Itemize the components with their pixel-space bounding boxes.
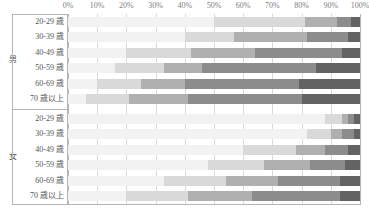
x-axis-bottom-line xyxy=(67,204,361,205)
bar-segment-1 xyxy=(68,191,126,201)
bar-segment-4 xyxy=(188,94,302,104)
bar-segment-1 xyxy=(68,79,97,89)
x-axis-tick-labels: 0%10%20%30%40%50%60%70%80%90%100% xyxy=(0,0,368,14)
bar-segment-5 xyxy=(340,176,360,186)
bar-segment-1 xyxy=(68,94,86,104)
bar-segment-4 xyxy=(342,129,354,139)
bar-segment-1 xyxy=(68,48,126,58)
bar-row xyxy=(68,191,360,201)
row-label-女-5: 70 歳以上 xyxy=(30,190,64,202)
bar-segment-5 xyxy=(348,32,360,42)
bar-segment-3 xyxy=(264,160,311,170)
bar-segment-5 xyxy=(354,129,360,139)
bar-row xyxy=(68,176,360,186)
x-tick-label-50: 50% xyxy=(207,1,222,10)
bar-segment-1 xyxy=(68,129,307,139)
row-label-男-4: 60-69 歳 xyxy=(35,78,64,90)
bar-segment-3 xyxy=(188,191,252,201)
bar-segment-1 xyxy=(68,17,214,27)
bar-segment-5 xyxy=(316,63,360,73)
bar-segment-5 xyxy=(340,191,360,201)
label-column-bottom-rule xyxy=(12,204,68,205)
x-tick-label-0: 0% xyxy=(63,1,74,10)
bar-segment-3 xyxy=(164,63,202,73)
row-label-男-2: 40-49 歳 xyxy=(35,47,64,59)
label-column-top-rule xyxy=(12,14,68,15)
bar-segment-4 xyxy=(307,32,348,42)
bar-segment-2 xyxy=(126,48,190,58)
bar-segment-1 xyxy=(68,114,325,124)
bar-segment-2 xyxy=(86,94,130,104)
row-label-女-4: 60-69 歳 xyxy=(35,175,64,187)
row-label-女-0: 20-29 歳 xyxy=(35,113,64,125)
bar-segment-2 xyxy=(325,114,343,124)
bar-segment-4 xyxy=(185,79,299,89)
bar-segment-1 xyxy=(68,176,164,186)
bar-segment-3 xyxy=(296,145,325,155)
bar-segment-4 xyxy=(252,191,340,201)
bar-row xyxy=(68,48,360,58)
bar-segment-3 xyxy=(141,79,185,89)
bar-segment-2 xyxy=(185,32,235,42)
bar-segment-1 xyxy=(68,145,243,155)
bar-segment-3 xyxy=(129,94,187,104)
bar-row xyxy=(68,79,360,89)
bar-segment-4 xyxy=(278,176,339,186)
plot-area xyxy=(68,14,360,204)
bar-segment-4 xyxy=(255,48,343,58)
bar-segment-2 xyxy=(164,176,225,186)
row-label-男-1: 30-39 歳 xyxy=(35,31,64,43)
x-tick-label-40: 40% xyxy=(177,1,192,10)
bar-segment-2 xyxy=(126,191,187,201)
row-label-女-1: 30-39 歳 xyxy=(35,128,64,140)
bar-row xyxy=(68,114,360,124)
bar-row xyxy=(68,63,360,73)
x-tick-label-60: 60% xyxy=(236,1,251,10)
bar-segment-5 xyxy=(354,114,360,124)
bar-segment-2 xyxy=(97,79,141,89)
bar-segment-5 xyxy=(345,160,360,170)
bar-segment-1 xyxy=(68,32,185,42)
row-label-男-3: 50-59 歳 xyxy=(35,62,64,74)
row-label-女-3: 50-59 歳 xyxy=(35,159,64,171)
bar-segment-4 xyxy=(202,63,316,73)
bar-segment-1 xyxy=(68,160,208,170)
bar-segment-3 xyxy=(226,176,279,186)
row-label-女-2: 40-49 歳 xyxy=(35,144,64,156)
x-tick-label-100: 100% xyxy=(351,1,369,10)
bar-row xyxy=(68,129,360,139)
x-tick-label-80: 80% xyxy=(294,1,309,10)
group-divider-rule xyxy=(12,109,68,110)
x-tick-label-20: 20% xyxy=(119,1,134,10)
bar-segment-1 xyxy=(68,63,115,73)
x-tick-label-70: 70% xyxy=(265,1,280,10)
bar-segment-2 xyxy=(243,145,296,155)
x-tick-label-90: 90% xyxy=(323,1,338,10)
bar-segment-5 xyxy=(302,94,360,104)
bar-row xyxy=(68,160,360,170)
bar-segment-3 xyxy=(191,48,255,58)
bar-row xyxy=(68,32,360,42)
bar-segment-2 xyxy=(208,160,263,170)
bar-row xyxy=(68,145,360,155)
bar-segment-3 xyxy=(234,32,307,42)
bar-segment-2 xyxy=(307,129,330,139)
bar-segment-5 xyxy=(351,17,360,27)
bar-segment-3 xyxy=(331,129,343,139)
x-tick-label-30: 30% xyxy=(148,1,163,10)
x-tick-label-10: 10% xyxy=(90,1,105,10)
row-label-男-0: 20-29 歳 xyxy=(35,16,64,28)
bar-segment-5 xyxy=(348,145,360,155)
bar-segment-4 xyxy=(325,145,348,155)
bar-segment-2 xyxy=(214,17,305,27)
bar-segment-4 xyxy=(310,160,345,170)
bar-segment-5 xyxy=(342,48,360,58)
bar-row xyxy=(68,17,360,27)
bar-row xyxy=(68,94,360,104)
gridline-100 xyxy=(360,14,361,204)
bar-segment-5 xyxy=(299,79,360,89)
row-label-男-5: 70 歳以上 xyxy=(30,93,64,105)
bar-segment-2 xyxy=(115,63,165,73)
bar-segment-3 xyxy=(305,17,337,27)
